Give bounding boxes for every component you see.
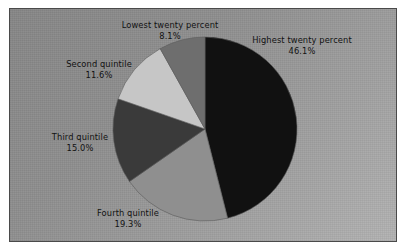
pie-chart: Lowest twenty percent 8.1% Second quinti… <box>10 9 396 241</box>
pie-label-name: Third quintile <box>28 132 132 143</box>
pie-label-name: Highest twenty percent <box>232 35 372 46</box>
pie-label-name: Second quintile <box>45 59 153 70</box>
pie-label-fourth-quintile: Fourth quintile 19.3% <box>72 208 184 229</box>
pie-label-lowest-twenty-percent: Lowest twenty percent 8.1% <box>110 20 230 41</box>
pie-label-value: 19.3% <box>72 219 184 230</box>
pie-label-third-quintile: Third quintile 15.0% <box>28 132 132 153</box>
pie-label-name: Lowest twenty percent <box>110 20 230 31</box>
pie-label-value: 11.6% <box>45 70 153 81</box>
pie-label-highest-twenty-percent: Highest twenty percent 46.1% <box>232 35 372 56</box>
pie-label-second-quintile: Second quintile 11.6% <box>45 59 153 80</box>
pie-label-value: 15.0% <box>28 143 132 154</box>
screenshot-root: Lowest twenty percent 8.1% Second quinti… <box>0 0 406 251</box>
pie-label-value: 46.1% <box>232 46 372 57</box>
pie-chart-panel: Lowest twenty percent 8.1% Second quinti… <box>9 8 397 242</box>
pie-label-value: 8.1% <box>110 31 230 42</box>
pie-label-name: Fourth quintile <box>72 208 184 219</box>
